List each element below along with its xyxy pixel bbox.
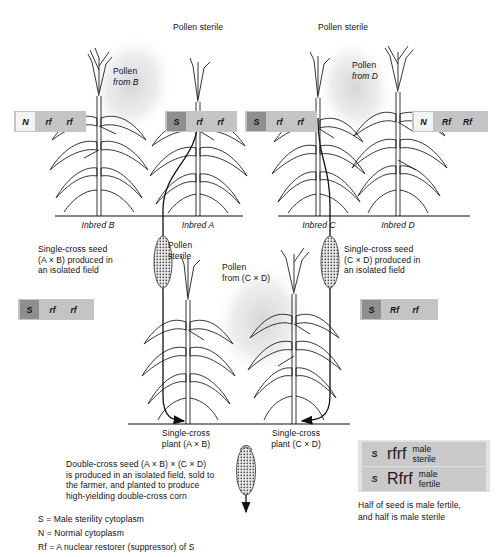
phenotype-line-2: fertile	[419, 479, 441, 490]
phenotype-line-1: male	[419, 469, 441, 480]
label-pollen-from-b-line1: Pollen	[113, 66, 137, 77]
label-pollen-from-b-line2: from B	[113, 77, 139, 88]
plant-label-line-1: Single-cross	[244, 428, 348, 439]
allele-1: rf	[189, 117, 210, 127]
legend-row-male-sterile: S rf rf male sterile	[362, 442, 486, 466]
plant-label-line-1: Single-cross	[134, 428, 238, 439]
allele-1: rf	[387, 445, 397, 463]
label-pollen-from-cd-line1: Pollen	[222, 262, 246, 273]
plant-label-line-2: plant (A × B)	[134, 439, 238, 450]
allele-2: rf	[210, 117, 231, 127]
allele-1: rf	[42, 305, 63, 315]
allele-2: rf	[397, 445, 407, 463]
genotype-box-single-cross-cd: S Rf rf	[360, 299, 438, 320]
cob-single-cross-cd	[321, 236, 339, 288]
allele-1: rf	[38, 117, 59, 127]
note-line-1: Single-cross seed	[38, 244, 150, 255]
label-pollen-from-cd-line2: from (C × D)	[222, 273, 270, 284]
genotype-box-inbred-a: S rf rf	[165, 111, 237, 132]
legend-caption: Half of seed is male fertile, and half i…	[358, 500, 498, 523]
note-line-3: an isolated field	[38, 265, 150, 276]
label-pollen-sterile-right: Pollen sterile	[288, 22, 398, 33]
note-line-1: Single-cross seed	[344, 244, 464, 255]
label-inbred-a: Inbred A	[162, 220, 234, 231]
allele-1: Rf	[384, 305, 405, 315]
note-line-2: is produced in an isolated field, sold t…	[66, 470, 246, 481]
cytoplasm-cell-s: S	[247, 112, 266, 131]
allele-1: rf	[269, 117, 290, 127]
genotype-box-inbred-c: S rf rf	[245, 111, 317, 132]
figure-canvas: Pollen sterile Pollen sterile Pollen fro…	[0, 0, 498, 557]
allele-2: rf	[290, 117, 311, 127]
cytoplasm-cell-s: S	[362, 300, 381, 319]
note-double-cross: Double-cross seed (A × B) × (C × D) is p…	[66, 459, 246, 501]
cytoplasm-cell-n: N	[414, 112, 433, 131]
label-inbred-b: Inbred B	[62, 220, 134, 231]
note-single-cross-ab: Single-cross seed (A × B) produced in an…	[38, 244, 150, 276]
note-line-2: (C × D) produced in	[344, 255, 464, 266]
label-single-cross-plant-cd: Single-cross plant (C × D)	[244, 428, 348, 449]
allele-1: Rf	[387, 470, 403, 488]
allele-2: rf	[405, 305, 426, 315]
note-line-4: high-yielding double-cross corn	[66, 491, 246, 502]
genotype-box-single-cross-ab: S rf rf	[18, 299, 94, 320]
legend-caption-line-2: and half is male sterile	[358, 512, 498, 524]
note-line-3: the farmer, and planted to produce	[66, 480, 246, 491]
genotype-box-inbred-d: N Rf Rf	[412, 111, 488, 132]
allele-2: rf	[63, 305, 84, 315]
cytoplasm-cell-s: S	[20, 300, 39, 319]
legend-key-s: S = Male sterility cytoplasm	[38, 512, 288, 526]
label-inbred-d: Inbred D	[362, 220, 434, 231]
label-single-cross-plant-ab: Single-cross plant (A × B)	[134, 428, 238, 449]
genotype-box-inbred-b: N rf rf	[14, 111, 86, 132]
phenotype-line-1: male	[413, 444, 436, 455]
label-mid-pollen-sterile-line2: sterile	[168, 251, 191, 262]
cytoplasm-cell-n: N	[16, 112, 35, 131]
plant-label-line-2: plant (C × D)	[244, 439, 348, 450]
legend-row-male-fertile: S Rf rf male fertile	[362, 467, 486, 491]
label-pollen-from-d-line1: Pollen	[352, 60, 376, 71]
cytoplasm-cell-s: S	[167, 112, 186, 131]
label-inbred-c: Inbred C	[283, 220, 355, 231]
allele-2: Rf	[457, 117, 478, 127]
allele-1: Rf	[436, 117, 457, 127]
note-single-cross-cd: Single-cross seed (C × D) produced in an…	[344, 244, 464, 276]
allele-2: rf	[59, 117, 80, 127]
label-pollen-sterile-left: Pollen sterile	[143, 22, 253, 33]
phenotype-line-2: sterile	[413, 454, 436, 465]
legend-key-n: N = Normal cytoplasm	[38, 526, 288, 540]
legend-caption-line-1: Half of seed is male fertile,	[358, 500, 498, 512]
allele-2: rf	[403, 470, 413, 488]
label-pollen-from-d-line2: from D	[352, 71, 378, 82]
cytoplasm-cell-s: S	[365, 470, 384, 489]
note-line-1: Double-cross seed (A × B) × (C × D)	[66, 459, 246, 470]
legend-key-rf: Rf = A nuclear restorer (suppressor) of …	[38, 540, 288, 554]
legend-key-list: S = Male sterility cytoplasm N = Normal …	[38, 512, 288, 554]
note-line-3: an isolated field	[344, 265, 464, 276]
label-mid-pollen-sterile-line1: Pollen	[168, 240, 192, 251]
cytoplasm-cell-s: S	[365, 445, 384, 464]
note-line-2: (A × B) produced in	[38, 255, 150, 266]
